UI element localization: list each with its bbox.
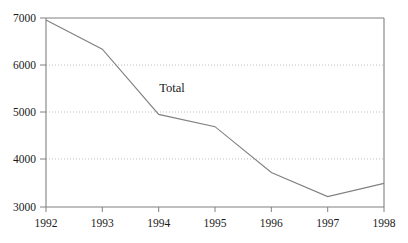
- y-tick-label-4000: 4000: [13, 153, 36, 165]
- x-tick-label-1995: 1995: [204, 217, 227, 229]
- y-tick-label-6000: 6000: [13, 59, 36, 71]
- line-chart: 3000 4000 5000 6000 7000 1992 1993 1994 …: [0, 0, 408, 243]
- y-tick-label-7000: 7000: [13, 12, 36, 24]
- x-tick-label-1997: 1997: [316, 217, 339, 229]
- x-tick-label-1996: 1996: [260, 217, 283, 229]
- series-annotation-total: Total: [159, 81, 185, 95]
- y-tick-label-3000: 3000: [13, 201, 36, 213]
- x-tick-label-1998: 1998: [373, 217, 396, 229]
- x-tick-label-1993: 1993: [91, 217, 114, 229]
- chart-canvas: 3000 4000 5000 6000 7000 1992 1993 1994 …: [0, 0, 408, 243]
- y-tick-label-5000: 5000: [13, 106, 36, 118]
- x-tick-label-1992: 1992: [35, 217, 58, 229]
- x-tick-label-1994: 1994: [147, 217, 170, 229]
